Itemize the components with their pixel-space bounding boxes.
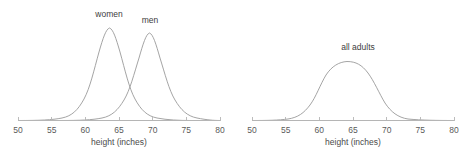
curve-women (18, 28, 190, 121)
x-tick-label: 80 (449, 125, 459, 135)
x-tick-label: 65 (114, 125, 124, 135)
x-tick-label: 55 (281, 125, 291, 135)
x-tick-label: 75 (416, 125, 426, 135)
height-distribution-figure: 50 55 60 65 70 75 80 height (inches) wom… (0, 0, 468, 154)
x-tick-label: 70 (148, 125, 158, 135)
x-tick-label: 60 (81, 125, 91, 135)
panel-all-adults-plot: 50 55 60 65 70 75 80 height (inches) all… (234, 0, 468, 154)
curve-label-women: women (94, 9, 123, 19)
panel-women-men-plot: 50 55 60 65 70 75 80 height (inches) wom… (0, 0, 234, 154)
x-tick-label: 70 (382, 125, 392, 135)
panel-women-men: 50 55 60 65 70 75 80 height (inches) wom… (0, 0, 234, 154)
x-tick-label: 55 (47, 125, 57, 135)
x-tick-label: 50 (13, 125, 23, 135)
x-axis-title: height (inches) (91, 137, 147, 147)
panel-all-adults: 50 55 60 65 70 75 80 height (inches) all… (234, 0, 468, 154)
x-tick-label: 60 (315, 125, 325, 135)
curve-label-men: men (142, 15, 159, 25)
x-axis-title: height (inches) (325, 137, 381, 147)
x-tick-label: 80 (215, 125, 225, 135)
curve-label-all-adults: all adults (341, 42, 375, 52)
curve-all-adults (252, 62, 454, 121)
x-tick-label: 50 (247, 125, 257, 135)
x-tick-label: 65 (348, 125, 358, 135)
x-tick-label: 75 (182, 125, 192, 135)
